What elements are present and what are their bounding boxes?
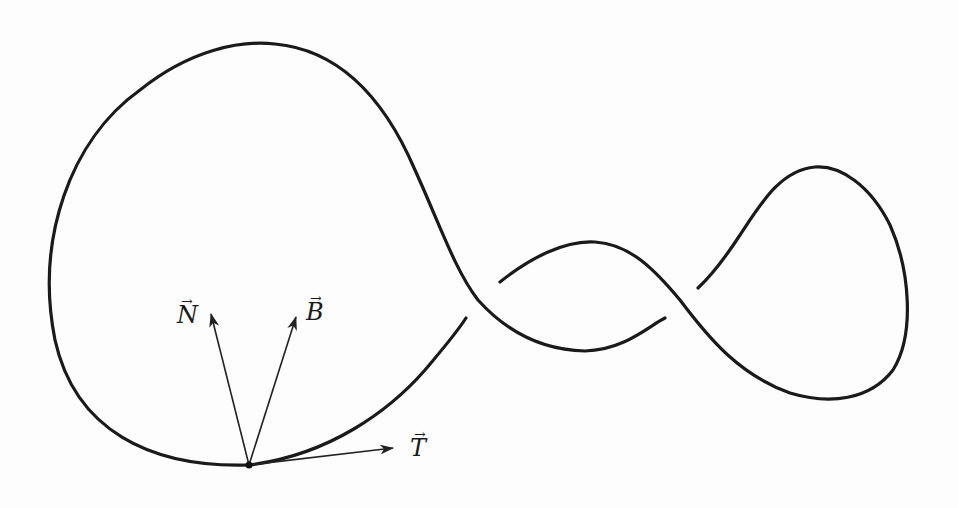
middle-arc-strand	[500, 167, 907, 399]
lower-right-strand	[249, 318, 466, 465]
big-loop-strand	[49, 43, 665, 465]
base-point	[246, 462, 253, 469]
diagram-canvas: → N → B → T	[0, 0, 958, 508]
normal-vector-label: → N	[177, 303, 198, 327]
knot-curve	[0, 0, 958, 508]
tangent-vector-arrow	[249, 448, 393, 465]
normal-vector-arrow	[211, 314, 249, 465]
binormal-vector-label: → B	[306, 300, 324, 324]
binormal-vector-arrow	[249, 317, 296, 465]
tangent-vector-label: → T	[410, 436, 426, 460]
